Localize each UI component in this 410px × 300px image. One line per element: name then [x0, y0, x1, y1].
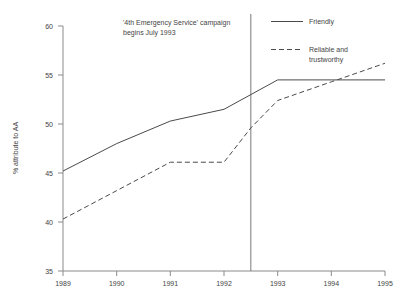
chart-container: 35 40 45 50 55 60 1989 1990 1991 1992 19…: [0, 0, 410, 300]
legend-label-reliable-line1: Reliable and: [309, 46, 348, 53]
y-axis-title: % attribute to AA: [12, 122, 19, 174]
legend: Friendly Reliable and trustworthy: [271, 18, 348, 64]
y-tick-label: 40: [45, 219, 53, 226]
y-tick-label: 60: [45, 23, 53, 30]
series-line-reliable-trustworthy: [63, 63, 385, 219]
y-axis-ticks: [58, 26, 63, 271]
y-tick-label: 55: [45, 72, 53, 79]
y-tick-label: 45: [45, 170, 53, 177]
x-tick-label: 1989: [55, 280, 71, 287]
campaign-annotation-line2: begins July 1993: [123, 29, 176, 37]
x-tick-label: 1992: [216, 280, 232, 287]
y-tick-label: 50: [45, 121, 53, 128]
legend-label-reliable-line2: trustworthy: [309, 56, 344, 64]
x-tick-label: 1995: [377, 280, 393, 287]
campaign-annotation-line1: '4th Emergency Service' campaign: [123, 19, 230, 27]
x-tick-label: 1990: [109, 280, 125, 287]
legend-label-friendly: Friendly: [309, 18, 334, 26]
x-axis-ticks: [63, 271, 385, 276]
series-line-friendly: [63, 80, 385, 171]
x-tick-label: 1991: [163, 280, 179, 287]
x-axis-tick-labels: 1989 1990 1991 1992 1993 1994 1995: [55, 280, 393, 287]
x-tick-label: 1994: [324, 280, 340, 287]
line-chart: 35 40 45 50 55 60 1989 1990 1991 1992 19…: [0, 0, 410, 300]
y-tick-label: 35: [45, 268, 53, 275]
y-axis-tick-labels: 35 40 45 50 55 60: [45, 23, 53, 275]
x-tick-label: 1993: [270, 280, 286, 287]
